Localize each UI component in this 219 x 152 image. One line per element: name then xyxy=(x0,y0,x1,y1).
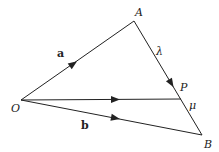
ratio-label-lambda: λ xyxy=(155,45,163,58)
arrowhead-OA-icon xyxy=(68,58,79,69)
edge-AB xyxy=(134,21,202,135)
vector-label-b: b xyxy=(81,119,89,132)
edge-OA xyxy=(21,21,134,100)
point-label-B: B xyxy=(203,138,212,151)
point-label-P: P xyxy=(179,81,188,94)
point-label-O: O xyxy=(11,102,20,115)
ratio-label-mu: μ xyxy=(189,99,196,112)
vector-label-a: a xyxy=(57,47,64,60)
arrowhead-AP-icon xyxy=(166,78,177,89)
arrowhead-OP-icon xyxy=(111,96,120,103)
arrowhead-OB-icon xyxy=(110,114,120,123)
edge-OP xyxy=(21,99,181,100)
vector-diagram: A O P B a b λ μ xyxy=(0,0,219,152)
point-label-A: A xyxy=(134,6,143,19)
